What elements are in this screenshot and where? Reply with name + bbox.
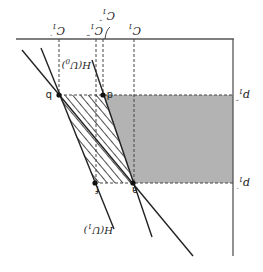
svg-text:p1″: p1″ xyxy=(235,87,250,102)
label-d: d xyxy=(107,90,113,101)
svg-text:C1: C1 xyxy=(128,22,141,37)
point-b xyxy=(56,92,61,97)
label-h-u0: H(U0) xyxy=(61,57,92,71)
c1-double-leader xyxy=(105,27,110,39)
svg-text:C1′: C1′ xyxy=(50,22,65,37)
svg-text:H(U1): H(U1) xyxy=(83,222,114,236)
label-f: f xyxy=(95,184,99,195)
svg-text:p1′: p1′ xyxy=(236,175,250,190)
label-c1: C1 xyxy=(128,22,141,37)
label-c1-double: C1″ xyxy=(99,7,115,22)
label-c1-prime: C1′ xyxy=(50,22,65,37)
label-c1-triple: C1‴ xyxy=(86,22,103,37)
label-h-u1: H(U1) xyxy=(83,222,114,236)
svg-text:C1″: C1″ xyxy=(99,7,115,22)
label-a: a xyxy=(132,185,138,196)
point-d xyxy=(100,92,105,97)
svg-text:H(U0): H(U0) xyxy=(61,57,92,71)
label-p1-prime: p1′ xyxy=(236,175,250,190)
economics-diagram: b d f a C1′ C1‴ C1″ C1 p1″ p1′ H(U0) H(U… xyxy=(0,0,263,272)
point-a xyxy=(130,180,135,185)
label-b: b xyxy=(46,90,52,101)
svg-text:C1‴: C1‴ xyxy=(86,22,103,37)
label-p1-double: p1″ xyxy=(235,87,250,102)
